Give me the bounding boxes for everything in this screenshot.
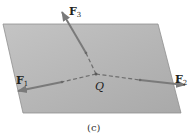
plane <box>3 24 181 113</box>
figure-caption: (c) <box>87 122 101 133</box>
label-f2: F2 <box>175 73 187 87</box>
label-q: Q <box>95 80 104 93</box>
point-q-marker <box>95 73 98 76</box>
force-diagram: F1 F2 F3 Q (c) <box>0 0 188 138</box>
label-f3: F3 <box>69 5 81 19</box>
